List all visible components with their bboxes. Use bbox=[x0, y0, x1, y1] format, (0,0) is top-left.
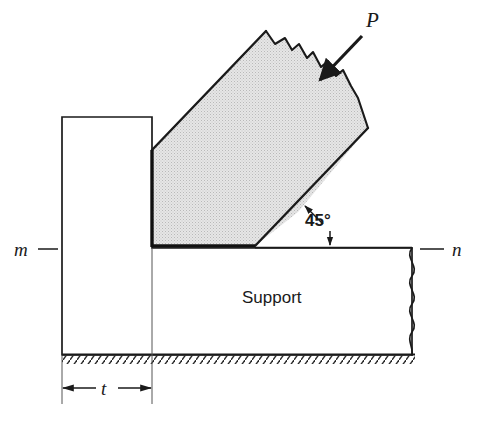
section-label-m: m bbox=[14, 240, 28, 259]
section-label-n: n bbox=[452, 240, 462, 259]
force-label-P: P bbox=[366, 10, 379, 31]
angle-label-45deg: 45° bbox=[305, 212, 331, 229]
thickness-label-t: t bbox=[101, 379, 106, 398]
support-label: Support bbox=[242, 289, 302, 306]
ground-support bbox=[62, 355, 415, 365]
engineering-figure: P m n t 45° Support bbox=[0, 0, 479, 424]
ground-hatching bbox=[62, 355, 415, 364]
figure-canvas bbox=[0, 0, 479, 424]
